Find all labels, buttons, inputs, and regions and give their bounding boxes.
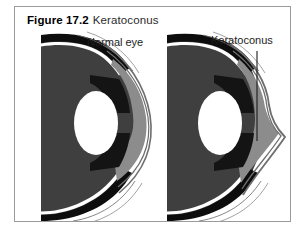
keratoconus-eye-label: Keratoconus — [211, 34, 273, 46]
normal-eye-panel — [41, 32, 151, 222]
figure-container: Figure 17.2Keratoconus — [0, 0, 306, 234]
figure-frame: Figure 17.2Keratoconus — [14, 6, 291, 222]
keratoconus-eye-lens — [198, 91, 242, 155]
normal-eye-label: Normal eye — [87, 36, 143, 48]
keratoconus-eye-panel — [167, 32, 285, 222]
normal-eye-lens — [74, 91, 118, 155]
eye-diagram: Normal eye Keratoconus — [15, 7, 291, 222]
